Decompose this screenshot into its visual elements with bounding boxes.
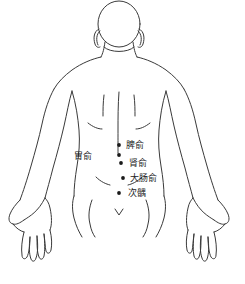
left-arm-inner bbox=[45, 91, 72, 198]
acupoint-dot-shenshu[interactable] bbox=[119, 161, 123, 165]
left-torso-side bbox=[72, 91, 79, 196]
acupoint-dot-dachangshu[interactable] bbox=[121, 176, 125, 180]
right-hip-outline bbox=[156, 196, 166, 237]
acupoint-dot-ciliao[interactable] bbox=[117, 191, 121, 195]
left-scapula-spine bbox=[88, 123, 102, 129]
neck-left bbox=[101, 42, 105, 57]
neck-right bbox=[133, 42, 137, 57]
body-outline-svg bbox=[0, 0, 245, 284]
left-shoulder-outline bbox=[54, 57, 101, 89]
acupoint-label-weishu: 胃俞 bbox=[74, 151, 92, 161]
right-hand-edge bbox=[187, 198, 194, 230]
acupoint-dot-weishu[interactable] bbox=[117, 153, 121, 157]
right-shoulder-outline bbox=[137, 57, 184, 89]
right-scapula-line bbox=[134, 95, 135, 116]
left-hand-edge bbox=[45, 198, 52, 230]
left-iliac-crest bbox=[96, 177, 110, 185]
left-hip-outline bbox=[73, 196, 83, 237]
left-finger-3 bbox=[37, 234, 45, 259]
acupoint-label-shenshu: 肾俞 bbox=[129, 158, 147, 168]
left-hand-palm bbox=[24, 198, 45, 220]
left-gluteal-fold bbox=[89, 200, 95, 237]
acupoint-label-ciliao: 次髃 bbox=[128, 188, 146, 198]
right-finger-2 bbox=[200, 236, 208, 261]
left-finger-2 bbox=[29, 236, 37, 261]
acupoint-diagram: 脾俞胃俞肾俞大肠俞次髃 bbox=[0, 0, 245, 284]
left-hand-outline bbox=[9, 200, 24, 224]
right-finger-1 bbox=[208, 232, 216, 259]
nape-crease bbox=[104, 47, 134, 52]
right-hand-thumb bbox=[214, 224, 225, 232]
right-arm-inner bbox=[166, 91, 193, 198]
left-finger-1 bbox=[22, 232, 30, 259]
acupoint-label-pishu: 脾俞 bbox=[126, 140, 144, 150]
left-scapula-line bbox=[103, 95, 104, 116]
right-scapula-spine bbox=[136, 123, 150, 129]
right-gluteal-fold bbox=[143, 200, 149, 237]
right-hand-outline bbox=[214, 200, 229, 224]
left-hand-thumb bbox=[13, 224, 24, 232]
right-finger-3 bbox=[193, 234, 201, 259]
gluteal-cleft bbox=[115, 209, 123, 215]
head-outline bbox=[98, 1, 140, 47]
acupoint-dot-pishu[interactable] bbox=[117, 143, 121, 147]
right-torso-side bbox=[159, 91, 166, 196]
right-hand-palm bbox=[193, 198, 214, 220]
acupoint-label-dachangshu: 大肠俞 bbox=[130, 173, 157, 183]
